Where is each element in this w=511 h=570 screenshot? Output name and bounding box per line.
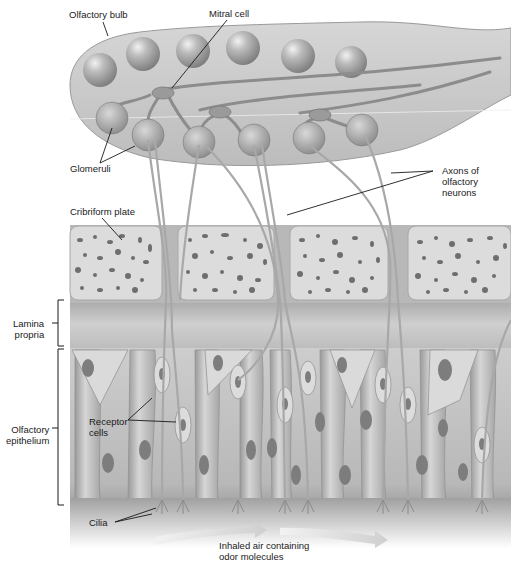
layer-brackets [52, 300, 64, 505]
label-axons-of-olfactory-neurons: Axons of olfactory neurons [442, 165, 479, 198]
lamina-propria-layer [70, 300, 511, 348]
cribriform-plate [70, 226, 511, 300]
label-cilia: Cilia [89, 517, 107, 528]
label-cribriform-plate: Cribriform plate [70, 206, 135, 217]
label-mitral-cell: Mitral cell [209, 8, 249, 19]
label-glomeruli: Glomeruli [70, 163, 111, 174]
olfactory-diagram: Olfactory bulb Mitral cell Glomeruli Axo… [0, 0, 511, 570]
label-receptor-cells: Receptor cells [89, 416, 128, 438]
label-inhaled-air: Inhaled air containing odor molecules [219, 540, 309, 562]
olfactory-epithelium-layer [70, 348, 511, 548]
label-lamina-propria: Lamina propria [13, 318, 44, 340]
label-olfactory-bulb: Olfactory bulb [69, 9, 128, 20]
diagram-artwork [0, 0, 511, 570]
label-olfactory-epithelium: Olfactory epithelium [6, 424, 49, 446]
